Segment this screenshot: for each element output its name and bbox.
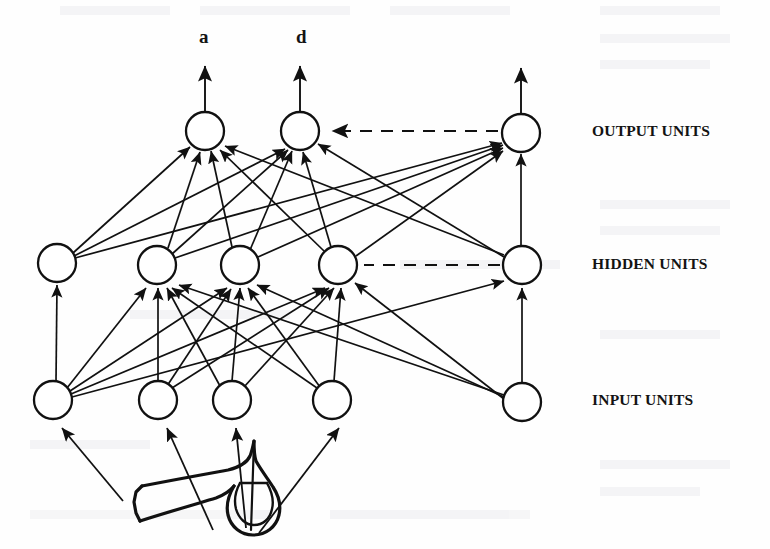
output-node-o2[interactable] bbox=[281, 112, 319, 150]
input-node-i2[interactable] bbox=[139, 381, 177, 419]
edge-i5-h2 bbox=[179, 285, 504, 395]
edge-i1-h1 bbox=[56, 285, 57, 381]
hidden-node-h3[interactable] bbox=[221, 246, 259, 284]
output-label-a: a bbox=[199, 26, 209, 48]
edge-h2-o3 bbox=[175, 145, 503, 258]
hidden-node-h5[interactable] bbox=[503, 246, 541, 284]
edge-h5-o2 bbox=[318, 144, 504, 257]
figure-canvas: OUTPUT UNITS HIDDEN UNITS INPUT UNITS a … bbox=[0, 0, 770, 549]
input-node-i4[interactable] bbox=[313, 381, 351, 419]
edge-h5-o1 bbox=[225, 146, 504, 255]
source-arrow-i1 bbox=[62, 428, 123, 501]
edge-h3-o1 bbox=[211, 151, 232, 247]
layer-label-output-units: OUTPUT UNITS bbox=[592, 122, 710, 140]
layer-label-hidden-units: HIDDEN UNITS bbox=[592, 255, 708, 273]
output-node-o1[interactable] bbox=[186, 112, 224, 150]
hidden-node-h2[interactable] bbox=[138, 246, 176, 284]
edge-i4-h4 bbox=[334, 288, 341, 381]
output-node-o3[interactable] bbox=[502, 114, 540, 152]
hidden-node-h1[interactable] bbox=[38, 244, 76, 282]
output-label-d: d bbox=[296, 26, 307, 48]
source-arrow-i4 bbox=[259, 428, 339, 533]
edges-hidden-to-output bbox=[73, 143, 521, 258]
edges-input-to-hidden bbox=[56, 281, 522, 399]
edge-i2-h4 bbox=[172, 288, 329, 388]
input-node-i5[interactable] bbox=[503, 383, 541, 421]
hidden-node-h4[interactable] bbox=[319, 246, 357, 284]
network-diagram-svg bbox=[0, 0, 770, 549]
trumpet-drawing bbox=[134, 441, 280, 535]
edge-i1-h2 bbox=[67, 288, 146, 388]
edge-h4-o2 bbox=[303, 152, 331, 247]
layer-label-input-units: INPUT UNITS bbox=[592, 391, 693, 409]
input-node-i3[interactable] bbox=[213, 381, 251, 419]
input-node-i1[interactable] bbox=[34, 381, 72, 419]
edge-i4-h3 bbox=[248, 288, 320, 387]
output-arrows bbox=[205, 66, 521, 114]
